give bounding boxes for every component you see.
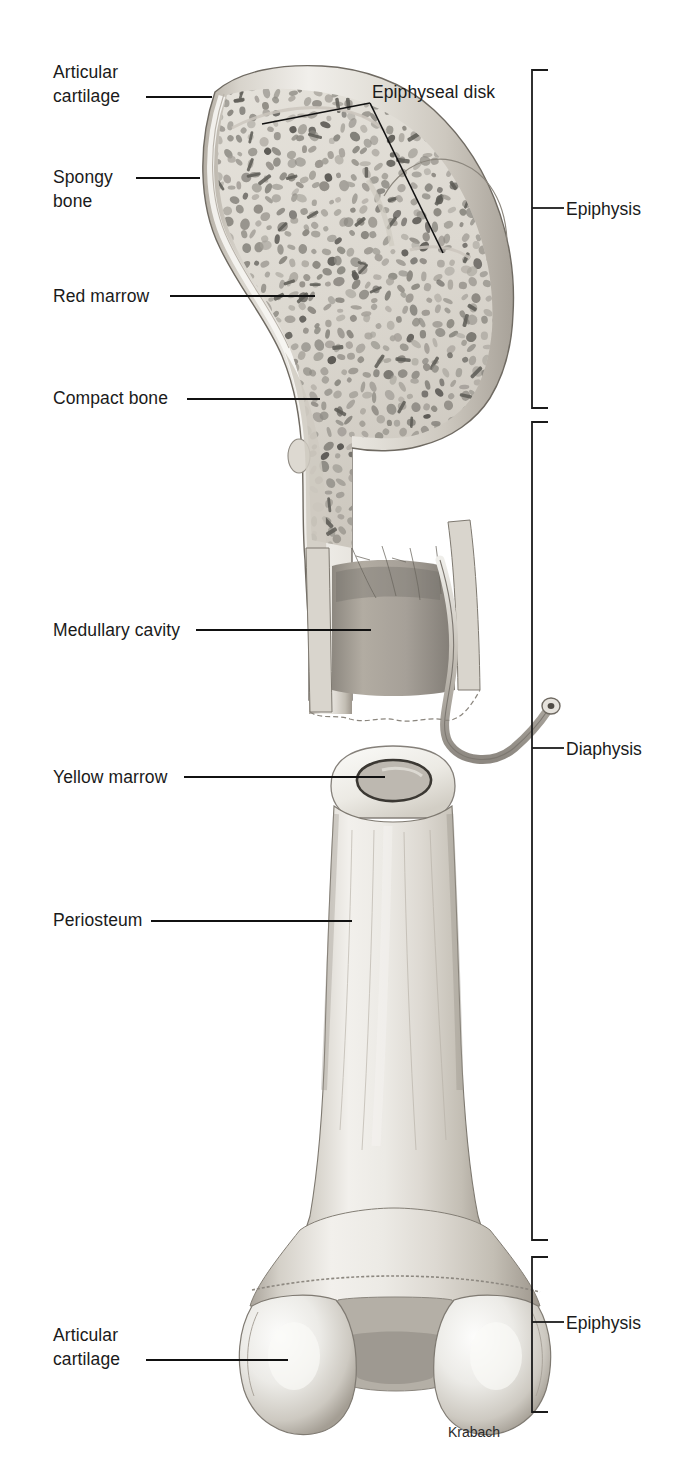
bracket-diaphysis-label: Diaphysis <box>566 737 642 761</box>
yellow-marrow-cavity <box>357 760 431 801</box>
label-line: bone <box>53 189 113 213</box>
label-line: Periosteum <box>53 908 143 932</box>
bracket-epiphysis-top <box>532 70 548 408</box>
label-red-marrow: Red marrow <box>53 284 149 308</box>
diaphysis-shaft-group <box>292 746 494 1272</box>
bracket-diaphysis <box>532 422 548 1240</box>
label-line: Articular <box>53 1323 120 1347</box>
label-line: Articular <box>53 60 120 84</box>
label-line: Compact bone <box>53 386 168 410</box>
label-articular-cartilage-top: Articularcartilage <box>53 60 120 108</box>
label-line: cartilage <box>53 1347 120 1371</box>
label-compact-bone: Compact bone <box>53 386 168 410</box>
bracket-epiphysis-bottom-label: Epiphysis <box>566 1311 641 1335</box>
label-yellow-marrow: Yellow marrow <box>53 765 167 789</box>
distal-epiphysis-group <box>239 1208 550 1435</box>
bracket-epiphysis-top-label: Epiphysis <box>566 197 641 221</box>
label-articular-cartilage-bottom: Articularcartilage <box>53 1323 120 1371</box>
distal-metaphysis-flare <box>250 1208 540 1306</box>
artist-signature: Krabach <box>448 1424 500 1440</box>
label-line: Red marrow <box>53 284 149 308</box>
vessel-lumen <box>548 703 555 709</box>
label-line: cartilage <box>53 84 120 108</box>
medial-condyle-highlight <box>268 1322 320 1390</box>
bracket-layer <box>532 70 564 1412</box>
label-line: Spongy <box>53 165 113 189</box>
label-epiphyseal-disk: Epiphyseal disk <box>372 80 495 104</box>
label-line: Medullary cavity <box>53 618 180 642</box>
shaft-body <box>292 806 494 1272</box>
intercondylar-shadow <box>346 1332 444 1385</box>
spongy-bone-region <box>197 56 520 580</box>
label-line: Yellow marrow <box>53 765 167 789</box>
label-spongy-bone: Spongybone <box>53 165 113 213</box>
long-bone-figure: the spongy bone contains red marrow, yel… <box>0 0 693 1474</box>
label-periosteum: Periosteum <box>53 908 143 932</box>
label-medullary-cavity: Medullary cavity <box>53 618 180 642</box>
lateral-condyle-highlight <box>470 1322 522 1390</box>
